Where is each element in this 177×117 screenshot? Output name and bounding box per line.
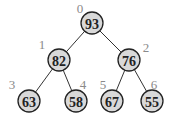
heap-tree-diagram: 93 0 82 1 76 2 63 3 58 4 67 5 [0,0,177,117]
tree-node-6: 55 6 [141,77,163,113]
tree-node-1: 82 1 [39,37,70,72]
node-value: 67 [105,95,119,110]
node-index-label: 0 [77,1,84,16]
node-value: 58 [69,95,83,110]
node-index-label: 5 [100,77,107,92]
node-value: 93 [85,17,99,32]
node-value: 63 [22,95,36,110]
tree-node-3: 63 3 [9,77,40,113]
node-index-label: 6 [151,77,158,92]
tree-node-2: 76 2 [118,40,149,72]
node-index-label: 1 [39,37,46,52]
node-value: 82 [52,54,66,69]
tree-node-0: 93 0 [77,1,103,35]
node-value: 55 [145,95,159,110]
node-index-label: 2 [143,40,150,55]
node-index-label: 4 [80,77,87,92]
node-value: 76 [122,54,136,69]
node-index-label: 3 [9,77,16,92]
